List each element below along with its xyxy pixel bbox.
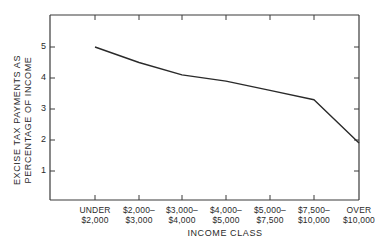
data-line xyxy=(95,47,359,143)
x-axis-label: INCOME CLASS xyxy=(160,228,290,238)
y-axis-label-line-2: PERCENTAGE OF INCOME xyxy=(23,55,34,185)
y-axis-label-line-1: EXCISE TAX PAYMENTS AS xyxy=(12,55,23,185)
x-tick-label: $4,000–$5,000 xyxy=(202,205,250,225)
x-tick-label: UNDER$2,000 xyxy=(71,205,119,225)
y-tick-label: 4 xyxy=(36,72,46,82)
x-tick-label: $3,000–$4,000 xyxy=(158,205,206,225)
x-tick-label: $7,500–$10,000 xyxy=(290,205,338,225)
y-axis-label: EXCISE TAX PAYMENTS AS PERCENTAGE OF INC… xyxy=(6,40,40,200)
y-tick-label: 1 xyxy=(36,165,46,175)
y-tick-label: 3 xyxy=(36,103,46,113)
x-tick-label: $2,000–$3,000 xyxy=(115,205,163,225)
y-tick-label: 5 xyxy=(36,41,46,51)
y-tick-label: 2 xyxy=(36,134,46,144)
axis-ticks xyxy=(50,15,359,200)
x-tick-label: $5,000–$7,500 xyxy=(246,205,294,225)
x-tick-label: OVER$10,000 xyxy=(335,205,378,225)
plot-frame xyxy=(50,15,359,200)
